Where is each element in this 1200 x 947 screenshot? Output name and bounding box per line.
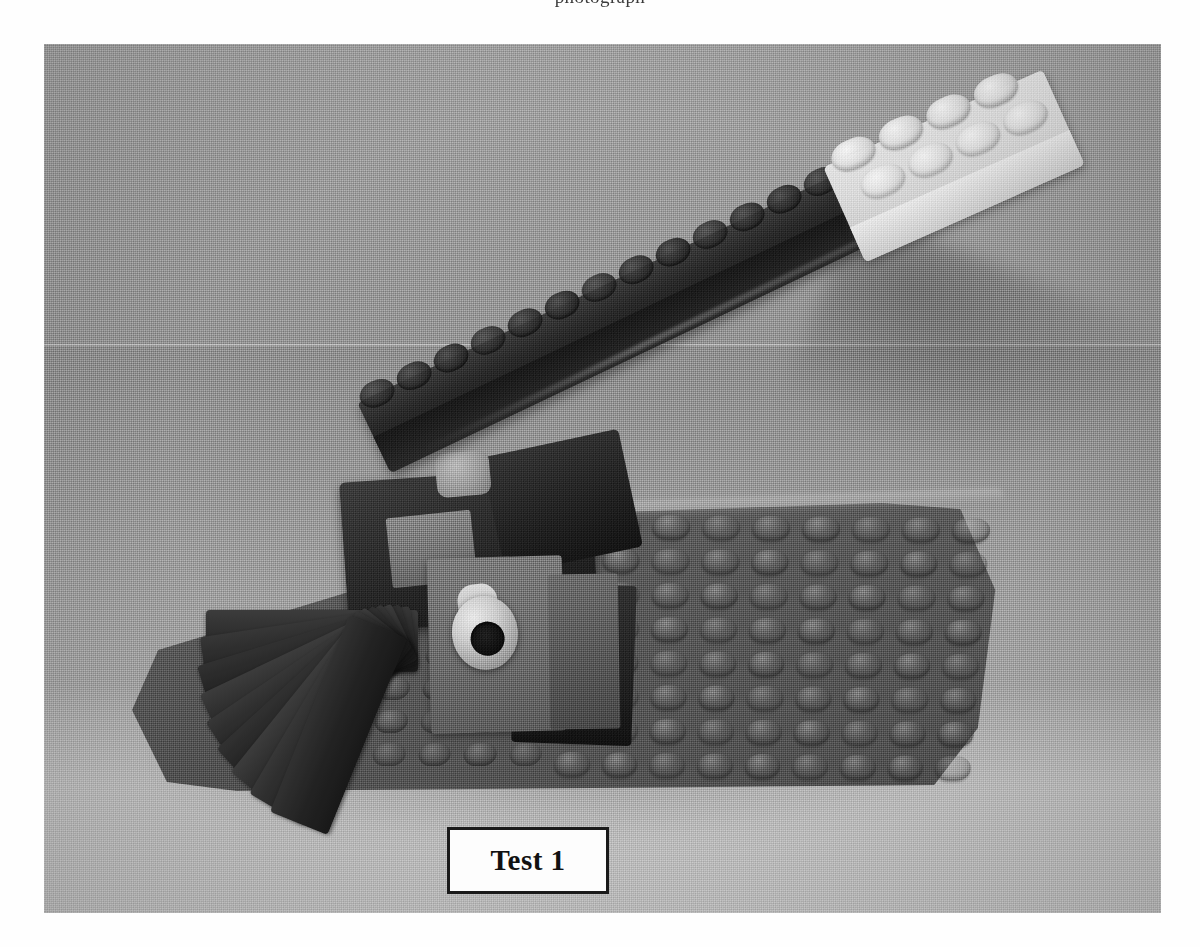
baseplate-stud <box>800 550 840 575</box>
stud-row <box>552 548 1001 578</box>
pivot-housing-side <box>548 573 621 729</box>
baseplate-stud <box>851 517 891 542</box>
baseplate-stud <box>849 551 889 576</box>
baseplate-stud <box>371 743 406 766</box>
baseplate-stud <box>791 754 829 779</box>
baseplate-stud <box>751 516 791 541</box>
baseplate-stud <box>797 618 836 643</box>
baseplate-stud <box>745 720 783 745</box>
caption-label: Test 1 <box>490 844 565 877</box>
figure-photograph <box>44 44 1161 913</box>
baseplate-stud <box>795 652 834 677</box>
baseplate-stud <box>698 651 737 676</box>
baseplate-stud <box>941 654 980 679</box>
baseplate-stud <box>651 549 691 574</box>
baseplate-stud <box>839 755 877 780</box>
baseplate-stud <box>844 653 883 678</box>
small-gray-block <box>434 450 492 499</box>
baseplate-stud <box>746 686 784 711</box>
baseplate-stud <box>649 685 687 710</box>
baseplate-stud <box>841 721 879 746</box>
baseplate-stud <box>417 743 452 766</box>
baseplate-stud <box>650 651 689 676</box>
baseplate-stud <box>744 754 782 779</box>
baseplate-stud <box>842 687 880 712</box>
baseplate-stud <box>798 584 837 609</box>
baseplate-stud <box>651 515 691 540</box>
baseplate-stud <box>895 619 934 644</box>
baseplate-stud <box>508 743 543 766</box>
top-clipped-caption-text: photograph <box>0 0 1200 8</box>
pivot-axle-hole <box>469 620 506 657</box>
baseplate-stud <box>901 517 941 542</box>
baseplate-stud <box>696 753 734 778</box>
baseplate-stud <box>649 719 687 744</box>
baseplate-stud <box>897 585 936 610</box>
baseplate-stud <box>697 719 735 744</box>
stud-row <box>553 752 984 781</box>
baseplate-stud <box>699 617 738 642</box>
baseplate-stud <box>889 721 927 746</box>
baseplate-stud <box>939 688 977 713</box>
caption-box: Test 1 <box>447 827 609 894</box>
baseplate-stud <box>891 687 929 712</box>
baseplate-stud <box>648 753 686 778</box>
baseplate-stud <box>846 619 885 644</box>
baseplate-stud <box>899 551 939 576</box>
baseplate-stud <box>887 755 925 780</box>
baseplate-stud <box>793 720 831 745</box>
baseplate-stud <box>750 550 790 575</box>
baseplate-stud <box>749 584 788 609</box>
baseplate-stud <box>601 752 639 777</box>
baseplate-stud <box>697 685 735 710</box>
baseplate-stud <box>462 743 497 766</box>
baseplate-stud <box>700 549 740 574</box>
page-canvas: photograph <box>0 0 1200 947</box>
baseplate-stud <box>951 518 991 543</box>
baseplate-stud <box>650 617 689 642</box>
baseplate-stud <box>794 686 832 711</box>
baseplate-stud <box>893 653 932 678</box>
baseplate-stud <box>944 620 983 645</box>
baseplate-stud <box>747 652 786 677</box>
baseplate-stud <box>934 756 972 781</box>
baseplate-stud <box>553 752 591 777</box>
baseplate-stud <box>748 618 787 643</box>
baseplate-stud <box>946 586 985 611</box>
baseplate-stud <box>701 515 741 540</box>
baseplate-stud <box>848 585 887 610</box>
baseplate-stud <box>650 583 689 608</box>
baseplate-stud <box>700 583 739 608</box>
baseplate-stud <box>937 722 975 747</box>
baseplate-stud <box>801 516 841 541</box>
baseplate-stud <box>949 552 989 577</box>
